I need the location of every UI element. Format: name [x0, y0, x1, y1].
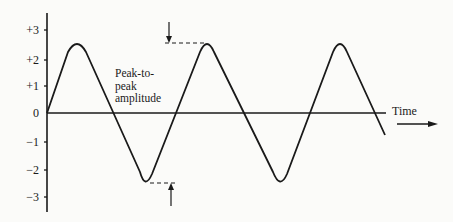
waveform-diagram: +3 +2 +1 0 −1 −2 −3 Peak-to- peak amplit… [0, 0, 453, 222]
y-tick-label: −2 [9, 164, 39, 176]
annotation-line-3: amplitude [115, 93, 161, 104]
y-tick-label: 0 [9, 107, 39, 119]
annotation-line-1: Peak-to- [115, 68, 154, 79]
x-axis-label: Time [392, 105, 417, 117]
arrow-down-icon [166, 22, 172, 43]
y-tick-label: −3 [9, 191, 39, 203]
waveform-plot [0, 0, 453, 222]
time-arrow-icon [397, 121, 438, 127]
y-tick-label: +1 [9, 80, 39, 92]
annotation-line-2: peak [115, 81, 137, 92]
arrow-up-icon [168, 183, 174, 206]
y-tick-label: +2 [9, 54, 39, 66]
y-tick-label: +3 [9, 24, 39, 36]
y-tick-label: −1 [9, 136, 39, 148]
